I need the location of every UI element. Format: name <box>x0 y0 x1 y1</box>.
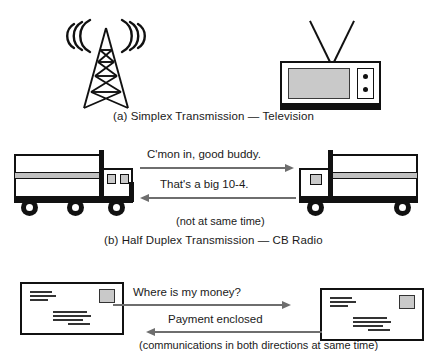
half-duplex-inbound-label: That's a big 10-4. <box>160 178 249 190</box>
full-duplex-outbound-label: Where is my money? <box>133 286 241 298</box>
full-duplex-outbound-arrow-head <box>282 301 291 309</box>
full-duplex-inbound-label: Payment enclosed <box>168 313 263 325</box>
truck-hub-right-1 <box>399 204 406 211</box>
envelope-address-line-3 <box>53 319 83 321</box>
truck-exhaust-stack-left <box>99 150 104 200</box>
television-icon <box>276 16 386 106</box>
tv-antenna-right <box>332 20 355 64</box>
truck-icon-right <box>292 148 432 218</box>
full-duplex-inbound-arrow-line <box>155 331 322 333</box>
truck-icon-left <box>10 148 140 218</box>
envelope-return-line-1-r <box>330 297 352 299</box>
half-duplex-note: (not at same time) <box>176 215 265 227</box>
full-duplex-inbound-arrow-head <box>146 328 155 336</box>
envelope-address-line-2-r <box>353 321 391 323</box>
half-duplex-outbound-arrow-line <box>140 167 287 169</box>
envelope-stamp-right <box>399 295 415 309</box>
full-duplex-outbound-arrow-line <box>113 304 284 306</box>
tv-knob-upper[interactable] <box>363 74 368 79</box>
tv-control-panel <box>357 68 374 99</box>
half-duplex-section: C'mon in, good buddy. That's a big 10-4.… <box>0 130 439 255</box>
envelope-address-line-3-r <box>353 325 383 327</box>
tv-antenna-left <box>309 20 332 64</box>
truck-hub-left-3 <box>113 204 120 211</box>
truck-hub-left-1 <box>26 204 33 211</box>
envelope-address-line-2 <box>53 315 91 317</box>
broadcast-tower-icon <box>46 8 166 113</box>
truck-hub-right-2 <box>312 204 319 211</box>
envelope-address-line-4 <box>68 323 90 325</box>
simplex-section: (a) Simplex Transmission — Television <box>0 0 439 130</box>
truck-exhaust-stack-right <box>328 150 333 200</box>
truck-hub-left-2 <box>72 204 79 211</box>
truck-stripe-right <box>331 172 417 179</box>
tv-screen <box>288 68 350 99</box>
half-duplex-inbound-arrow-head <box>140 194 149 202</box>
truck-window-left-a <box>107 174 116 184</box>
envelope-address-line-1 <box>53 311 87 313</box>
envelope-return-line-3-r <box>330 305 348 307</box>
half-duplex-outbound-label: C'mon in, good buddy. <box>147 148 261 160</box>
envelope-stamp-left <box>99 289 115 303</box>
caption-simplex: (a) Simplex Transmission — Television <box>113 110 314 122</box>
half-duplex-outbound-arrow-head <box>285 164 294 172</box>
caption-half-duplex: (b) Half Duplex Transmission — CB Radio <box>104 234 323 246</box>
envelope-address-line-1-r <box>353 317 387 319</box>
envelope-icon-left <box>20 282 124 335</box>
envelope-return-line-3 <box>30 299 48 301</box>
half-duplex-inbound-arrow-line <box>149 197 296 199</box>
tv-knob-lower[interactable] <box>363 87 368 92</box>
envelope-icon-right <box>320 288 424 341</box>
full-duplex-section: Where is my money? Payment enclosed (com… <box>0 255 439 357</box>
envelope-return-line-2-r <box>330 301 356 303</box>
truck-stripe-left <box>15 172 101 179</box>
transmission-modes-figure: (a) Simplex Transmission — Television <box>0 0 439 357</box>
envelope-address-line-4-r <box>368 329 390 331</box>
truck-window-left-b <box>120 174 129 184</box>
envelope-return-line-1 <box>30 291 52 293</box>
truck-window-right-a <box>310 174 322 185</box>
envelope-return-line-2 <box>30 295 56 297</box>
full-duplex-note: (communications in both directions at sa… <box>139 339 378 351</box>
